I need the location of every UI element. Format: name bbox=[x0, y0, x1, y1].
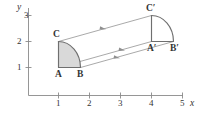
y-tick-label-2: 2 bbox=[17, 37, 22, 46]
point-label-c: C bbox=[53, 30, 60, 40]
y-axis-label: y bbox=[17, 3, 21, 13]
figure-container: y x 3 2 1 1 2 3 4 5 A B C A′ B′ C′ bbox=[0, 0, 204, 116]
point-label-a: A bbox=[55, 70, 62, 80]
x-tick-label-2: 2 bbox=[87, 99, 92, 108]
arrow-head-c-to-c-prime bbox=[100, 26, 107, 29]
arrow-line-b-to-b-prime bbox=[81, 42, 174, 68]
x-tick-label-1: 1 bbox=[56, 99, 61, 108]
arrow-line-c-to-c-prime bbox=[59, 16, 152, 42]
point-label-b-prime: B′ bbox=[170, 44, 179, 54]
image-quarter-disk-shape bbox=[152, 16, 174, 42]
x-axis-label: x bbox=[190, 99, 194, 109]
x-tick-label-4: 4 bbox=[149, 99, 154, 108]
point-label-c-prime: C′ bbox=[146, 4, 156, 14]
x-tick-label-3: 3 bbox=[118, 99, 123, 108]
y-tick-label-1: 1 bbox=[17, 63, 22, 72]
point-label-a-prime: A′ bbox=[147, 44, 157, 54]
point-label-b: B bbox=[77, 70, 83, 80]
x-tick-label-5: 5 bbox=[180, 99, 185, 108]
y-tick-label-3: 3 bbox=[24, 11, 29, 20]
source-quarter-disk-shape bbox=[59, 42, 81, 68]
coordinate-plane-figure bbox=[0, 0, 204, 116]
